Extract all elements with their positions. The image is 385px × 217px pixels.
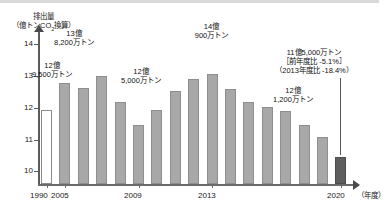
annotation-2005-line2: 8,200万トン [44, 38, 104, 47]
bar-2013 [207, 74, 218, 184]
x-tick-mark-1990 [47, 184, 48, 188]
annotation-2020: 11億5,000万トン ［前年度比 -5.1%］ （2013年度比 -18.4%… [255, 48, 373, 75]
x-axis-unit-label: （年度） [357, 192, 385, 200]
y-tick-label-10: 10 [14, 167, 33, 175]
bar-2014 [225, 89, 236, 185]
bar-2007 [96, 76, 107, 184]
bar-2006 [78, 88, 89, 184]
annotation-1990-line1: 12億 [28, 61, 76, 70]
annotation-2019-line2: 1,200万トン [264, 95, 322, 104]
x-tick-mark-2009 [139, 184, 140, 188]
bar-2015 [243, 102, 254, 184]
bar-2005 [59, 83, 70, 184]
bar-2017 [280, 111, 291, 184]
x-axis-arrow-icon [353, 180, 360, 190]
bar-2011 [170, 91, 181, 184]
x-tick-mark-2020 [341, 184, 342, 188]
annotation-2020-line3: （2013年度比 -18.4%） [255, 66, 373, 75]
annotation-1990-line2: 9,500万トン [28, 70, 76, 79]
x-tick-mark-2013 [212, 184, 213, 188]
y-axis-title-line1: 排出量 [12, 12, 75, 21]
y-tick-mark-11 [34, 140, 40, 141]
bar-2012 [188, 79, 199, 184]
annotation-2013-line2: 900万トン [184, 31, 239, 40]
x-tick-label-2020: 2020 [327, 191, 345, 200]
annotation-2020-line2: ［前年度比 -5.1%］ [255, 57, 373, 66]
y-tick-label-14: 14 [14, 40, 33, 48]
x-tick-label-2009: 2009 [124, 191, 142, 200]
x-axis-line [38, 184, 354, 186]
annotation-2013: 14億 900万トン [184, 22, 239, 40]
bar-2016 [262, 107, 273, 184]
bar-2008 [115, 102, 126, 184]
x-tick-label-2013: 2013 [198, 191, 216, 200]
annotation-2020-leader-line [340, 78, 341, 155]
annotation-2013-line1: 14億 [184, 22, 239, 31]
annotation-2019-line1: 12億 [264, 86, 322, 95]
x-tick-label-1990: 1990 [30, 191, 48, 200]
bar-2018 [299, 125, 310, 184]
bar-2009 [133, 125, 144, 184]
y-tick-mark-10 [34, 171, 40, 172]
annotation-2009-line2: 5,000万トン [111, 76, 171, 85]
bar-2019 [317, 137, 328, 184]
annotation-2005-line1: 13億 [44, 29, 104, 38]
annotation-1990: 12億 9,500万トン [28, 61, 76, 79]
y-tick-mark-14 [34, 44, 40, 45]
bar-2020 [335, 157, 346, 184]
y-tick-label-12: 12 [14, 104, 33, 112]
y-tick-mark-12 [34, 108, 40, 109]
x-tick-mark-2005 [65, 184, 66, 188]
annotation-2009-line1: 12億 [111, 67, 171, 76]
y-tick-label-11: 11 [14, 136, 33, 144]
annotation-2019: 12億 1,200万トン [264, 86, 322, 104]
bar-2010 [151, 110, 162, 184]
y-axis-arrow-icon [34, 25, 44, 32]
annotation-2005: 13億 8,200万トン [44, 29, 104, 47]
annotation-2020-line1: 11億5,000万トン [255, 48, 373, 57]
annotation-2009: 12億 5,000万トン [111, 67, 171, 85]
bar-1990 [41, 110, 52, 184]
x-tick-label-2005: 2005 [51, 191, 69, 200]
